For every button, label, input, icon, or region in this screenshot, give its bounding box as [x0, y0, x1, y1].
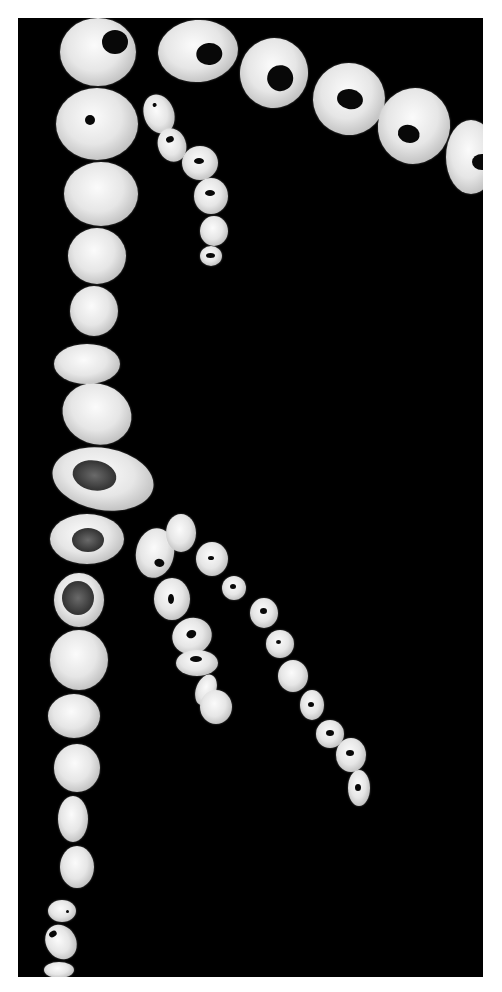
left-column-slice — [70, 286, 118, 336]
right-diagonal-chain-slice — [250, 598, 278, 628]
right-diagonal-chain-slice — [166, 514, 196, 552]
right-diagonal-chain-slice — [222, 576, 246, 600]
plaque-region — [62, 581, 94, 615]
right-diagonal-chain-slice — [278, 660, 308, 692]
left-column-slice — [54, 344, 120, 384]
vessel-lumen — [355, 784, 361, 791]
vessel-lumen — [472, 154, 483, 170]
left-column-slice — [48, 900, 76, 922]
left-column-slice — [56, 88, 138, 160]
left-column-slice — [44, 962, 74, 977]
top-row-large-rings-slice — [446, 120, 483, 194]
vessel-lumen — [326, 730, 334, 736]
middle-chain-slice — [200, 690, 232, 724]
left-column-slice — [54, 573, 104, 627]
vessel-lumen — [265, 63, 295, 93]
vessel-lumen — [154, 558, 165, 568]
upper-small-chain-slice — [194, 178, 228, 214]
vessel-lumen — [165, 135, 175, 143]
left-column-slice — [54, 374, 140, 454]
vessel-lumen — [308, 702, 314, 707]
vessel-lumen — [230, 584, 236, 589]
vessel-lumen — [205, 190, 215, 196]
specimen-photo-panel — [18, 18, 483, 977]
vessel-lumen — [85, 115, 95, 125]
plaque-region — [70, 457, 119, 494]
vessel-lumen — [48, 929, 58, 938]
vessel-lumen — [346, 750, 354, 756]
top-row-large-rings-slice — [155, 18, 240, 85]
left-column-slice — [58, 796, 88, 842]
right-diagonal-chain-slice — [300, 690, 324, 720]
middle-chain-slice — [154, 578, 190, 620]
upper-small-chain-slice — [200, 246, 222, 266]
right-diagonal-chain-slice — [336, 738, 366, 772]
left-column-slice — [60, 18, 136, 86]
vessel-lumen — [396, 122, 422, 145]
vessel-lumen — [206, 253, 215, 258]
right-diagonal-chain-slice — [266, 630, 294, 658]
left-column-slice — [47, 440, 158, 519]
vessel-lumen — [208, 556, 214, 560]
left-column-slice — [50, 514, 124, 564]
vessel-lumen — [335, 87, 364, 111]
upper-small-chain-slice — [182, 146, 218, 180]
right-diagonal-chain-slice — [348, 770, 370, 806]
vessel-lumen — [102, 30, 128, 54]
vessel-lumen — [190, 656, 202, 662]
vessel-lumen — [168, 594, 174, 604]
middle-chain-slice — [176, 650, 218, 676]
vessel-lumen — [185, 629, 197, 640]
left-column-slice — [60, 846, 94, 888]
vessel-lumen — [195, 42, 223, 66]
upper-small-chain-slice — [200, 216, 228, 246]
vessel-lumen — [152, 102, 157, 107]
right-diagonal-chain-slice — [196, 542, 228, 576]
left-column-slice — [50, 630, 108, 690]
vessel-lumen — [276, 640, 281, 644]
top-row-large-rings-slice — [234, 33, 313, 114]
vessel-lumen — [66, 910, 69, 913]
plaque-region — [72, 528, 104, 552]
vessel-lumen — [260, 608, 267, 614]
left-column-slice — [48, 694, 100, 738]
vessel-lumen — [194, 158, 204, 164]
left-column-slice — [64, 162, 138, 226]
left-column-slice — [39, 919, 83, 965]
left-column-slice — [68, 228, 126, 284]
left-column-slice — [54, 744, 100, 792]
